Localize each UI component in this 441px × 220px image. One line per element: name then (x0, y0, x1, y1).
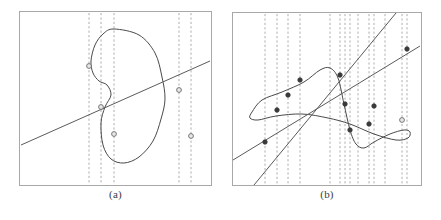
intersection-marker (298, 78, 302, 82)
panel-a-caption: (a) (19, 188, 212, 200)
intersection-marker (275, 108, 279, 112)
panel-b-plot (232, 12, 422, 186)
panel-b-caption: (b) (232, 188, 422, 200)
intersection-marker (87, 64, 92, 69)
intersection-marker (367, 122, 371, 126)
intersection-marker (99, 105, 104, 110)
series-shallow-rising-line (233, 46, 420, 160)
panel-b (232, 12, 422, 186)
series-closed-loop-curve (91, 29, 165, 163)
panel-a (19, 11, 212, 186)
intersection-marker (372, 104, 376, 108)
intersection-marker (263, 140, 267, 144)
panel-a-plot (19, 11, 212, 186)
intersection-marker (348, 128, 352, 132)
intersection-marker (177, 88, 182, 93)
intersection-marker (343, 102, 347, 106)
intersection-marker (405, 47, 409, 51)
intersection-marker (338, 73, 342, 77)
figure-container: (a) (b) (0, 0, 441, 220)
intersection-marker (286, 93, 290, 97)
intersection-marker (112, 132, 117, 137)
series-steep-rising-line (254, 13, 396, 185)
intersection-marker (189, 134, 194, 139)
intersection-marker (400, 118, 405, 123)
